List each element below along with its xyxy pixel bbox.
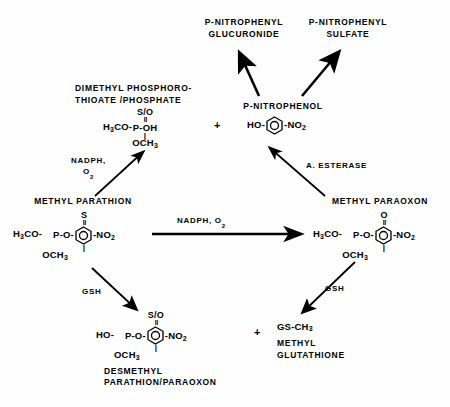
node-methyl-glutathione: GS-CH3 METHYL GLUTATHIONE [277, 322, 345, 361]
group-GS-CH: GS-CH [277, 322, 309, 332]
node-methyl-parathion: METHYL PARATHION H3CO-S‖P-O--NO2|OCH3 [13, 196, 153, 259]
dimethyl-phosphorothioate-formula: H3CO-S/O‖P-OH|OCH3 [103, 108, 192, 147]
single-bond-icon: | [155, 345, 157, 350]
edge-label-nadph-o2-up: NADPH, O2 [71, 155, 106, 181]
formula-left-group: H3CO- [313, 229, 342, 240]
nadph-label-line1: NADPH, [71, 155, 106, 166]
subscript-2: 2 [111, 234, 115, 241]
single-bond-icon: | [83, 245, 85, 250]
edge-label-gsh-left: GSH [82, 286, 101, 297]
bottom-group-OCH3: OCH3 [42, 250, 68, 260]
p-nitrophenol-name: P-NITROPHENOL [235, 101, 331, 113]
methyl-glutathione-formula: GS-CH3 [277, 322, 345, 332]
bottom-OCH: OCH [42, 249, 64, 260]
group-NO: -NO [393, 229, 411, 240]
subscript-3: 3 [154, 142, 158, 149]
edge-label-nadph-o2-horizontal: NADPH, O2 [177, 215, 226, 230]
methyl-glutathione-line2: GLUTATHIONE [277, 350, 345, 362]
phosphorus-stack: S/O‖P-O--NO2|OCH3 [114, 311, 198, 360]
formula-left-rest: CO- [24, 228, 42, 239]
methyl-glutathione-line1: METHYL [277, 338, 345, 350]
bottom-group-OCH3: OCH3 [132, 138, 158, 148]
node-dimethyl-phosphorothioate: DIMETHYL PHOSPHORO- THIOATE /PHOSPHATE H… [75, 83, 192, 147]
dimethyl-phosphorothioate-line2: THIOATE /PHOSPHATE [75, 95, 192, 107]
subscript-2: 2 [183, 335, 187, 342]
group-NO: -NO [93, 229, 111, 240]
subscript-2: 2 [302, 124, 306, 131]
subscript-3: 3 [20, 233, 24, 240]
desmethyl-line1: DESMETHYL [104, 366, 217, 378]
methyl-paraoxon-formula: H3CO-O‖P-O--NO2|OCH3 [313, 211, 447, 260]
group-OH: -OH [139, 123, 157, 133]
subscript-2: 2 [222, 223, 226, 229]
subscript-3: 3 [136, 354, 140, 361]
group-NO2: -NO2 [165, 331, 187, 341]
formula-left-group: H3CO- [13, 229, 42, 240]
linker-O: -O- [360, 230, 374, 240]
linker-O: -O- [60, 230, 74, 240]
single-bond-icon: | [383, 245, 385, 250]
subscript-3: 3 [364, 254, 368, 261]
subscript-3: 3 [320, 233, 324, 240]
methyl-paraoxon-name: METHYL PARAOXON [313, 196, 447, 208]
subscript-3: 3 [309, 324, 313, 334]
node-p-nitrophenyl-sulfate: P-NITROPHENYL SULFATE [273, 17, 423, 40]
benzene-ring-icon [375, 226, 392, 245]
subscript-3: 3 [110, 126, 114, 133]
node-desmethyl-parathion-paraoxon: HO-S/O‖P-O--NO2|OCH3 DESMETHYL PARATHION… [96, 311, 217, 389]
phosphorus-stack: S‖P-O--NO2|OCH3 [42, 211, 126, 260]
phosphorus-core: P-O--NO2 [125, 326, 187, 345]
formula-left-rest: CO- [324, 228, 342, 239]
p-nitrophenyl-sulfate-line1: P-NITROPHENYL [273, 17, 423, 29]
subscript-2: 2 [411, 234, 415, 241]
group-NO: -NO [165, 330, 183, 341]
subscript-2: 2 [90, 174, 94, 180]
node-p-nitrophenol: P-NITROPHENOL HO--NO2 [235, 101, 331, 135]
group-NO: -NO [284, 119, 302, 130]
methyl-parathion-name: METHYL PARATHION [13, 196, 153, 208]
nadph-label-line2: O2 [71, 166, 106, 181]
benzene-ring-icon [266, 116, 283, 135]
edge-label-a-esterase: A. ESTERASE [306, 160, 367, 171]
phosphorus-core: P-O--NO2 [53, 226, 115, 245]
bottom-OCH: OCH [114, 349, 136, 360]
formula-left-rest: CO- [114, 121, 132, 132]
methyl-parathion-formula: H3CO-S‖P-O--NO2|OCH3 [13, 211, 153, 260]
group-NO2: -NO2 [393, 230, 415, 240]
reaction-scheme-diagram: P-NITROPHENYL GLUCURONIDE P-NITROPHENYL … [0, 0, 450, 407]
bottom-group-OCH3: OCH3 [114, 350, 140, 360]
plus-sign-upper: + [214, 119, 220, 131]
edge-label-gsh-right: GSH [325, 283, 344, 294]
formula-left-group: H3CO- [103, 122, 132, 133]
plus-sign-lower: + [254, 326, 260, 338]
phosphorus-stack: O‖P-O--NO2|OCH3 [342, 211, 426, 260]
node-methyl-paraoxon: METHYL PARAOXON H3CO-O‖P-O--NO2|OCH3 [313, 196, 447, 259]
bottom-OCH: OCH [342, 249, 364, 260]
benzene-ring-icon [147, 326, 164, 345]
linker-O: -O- [131, 331, 145, 341]
arrow-p-nitrophenol-to-glucuronide [240, 54, 259, 96]
subscript-3: 3 [64, 254, 68, 261]
nadph-o2-text: NADPH, O [177, 216, 222, 225]
arrow-p-nitrophenol-to-sulfate [302, 53, 338, 96]
bottom-group-OCH3: OCH3 [342, 250, 368, 260]
group-HO: HO- [247, 120, 265, 130]
group-HO: HO- [96, 330, 114, 340]
group-NO2: -NO2 [93, 230, 115, 240]
p-nitrophenol-formula: HO--NO2 [247, 116, 331, 135]
p-nitrophenyl-sulfate-line2: SULFATE [273, 29, 423, 41]
desmethyl-formula: HO-S/O‖P-O--NO2|OCH3 [96, 311, 217, 360]
group-NO2: -NO2 [284, 120, 306, 131]
o2-text: O [83, 167, 90, 176]
phosphorus-core: P-O--NO2 [353, 226, 415, 245]
dimethyl-phosphorothioate-line1: DIMETHYL PHOSPHORO- [75, 83, 192, 95]
phosphorus-stack: S/O‖P-OH|OCH3 [132, 108, 158, 147]
arrow-methyl-paraoxon-to-p-nitrophenol [270, 148, 325, 196]
desmethyl-line2: PARATHION/PARAOXON [104, 377, 217, 389]
benzene-ring-icon [75, 226, 92, 245]
bottom-OCH: OCH [132, 137, 154, 148]
